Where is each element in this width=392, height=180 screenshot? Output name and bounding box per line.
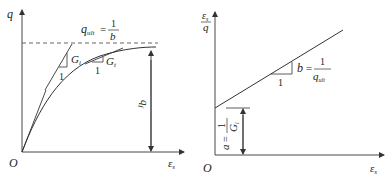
right-y-den: q [203,21,209,33]
slope-run: 1 [278,77,283,88]
left-x-axis-label: εs [168,157,175,171]
initial-slope-run: 1 [59,71,64,82]
tangent-line [85,48,123,64]
intercept-eq: = [220,136,231,142]
left-y-axis-label: q [7,7,13,21]
initial-tangent-low [22,90,46,152]
intercept-label: a = 1 Gi [216,118,240,150]
left-panel: q O εs qult = 1 b Gi 1 Gt 1 qf [7,7,184,171]
slope-num: 1 [320,56,325,67]
asymptote-eq: = [100,23,106,35]
intercept-var: a [219,144,231,150]
asymptote-den: b [110,30,116,42]
intercept-num: 1 [216,123,227,128]
tangent-slope-label: Gt [106,55,117,69]
slope-eq: = [306,62,312,74]
asymptote-num: 1 [111,18,116,29]
tangent-slope-triangle [92,57,103,62]
initial-tangent-line [45,44,72,90]
right-origin-label: O [203,161,212,175]
tangent-slope-run: 1 [95,65,100,76]
intercept-den: Gi [227,122,240,132]
initial-slope-label: Gi [71,53,81,67]
slope-den: qult [313,70,325,83]
right-x-axis-label: εs [370,162,377,176]
right-panel: εs q O εs 1 b = 1 qult a = 1 Gi [201,10,384,176]
asymptote-var: qult [81,22,95,37]
qf-label: qf [137,100,151,109]
diagram-canvas: q O εs qult = 1 b Gi 1 Gt 1 qf εs q O εs… [0,0,392,180]
left-origin-label: O [9,156,18,170]
slope-var: b [297,61,303,75]
